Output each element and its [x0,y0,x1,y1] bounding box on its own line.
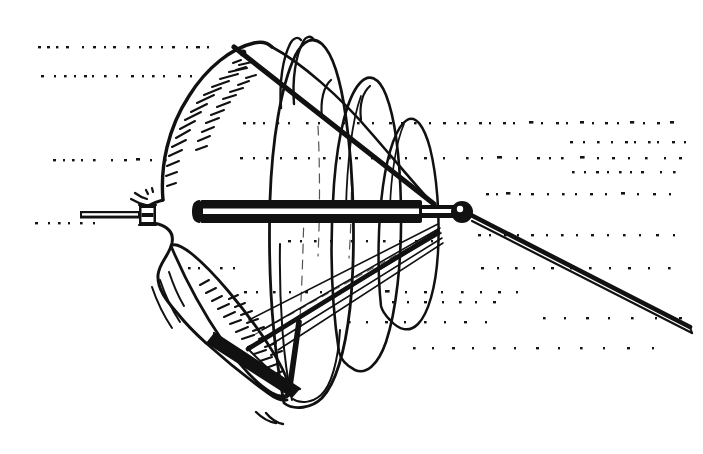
illustration-canvas [0,0,703,454]
paper-background [0,0,703,454]
figure-root: Hand-drawn technical line illustration m… [0,0,703,454]
main-shaft [192,200,422,223]
collar-ferrule [139,205,156,225]
thin-rod-left [80,211,142,219]
